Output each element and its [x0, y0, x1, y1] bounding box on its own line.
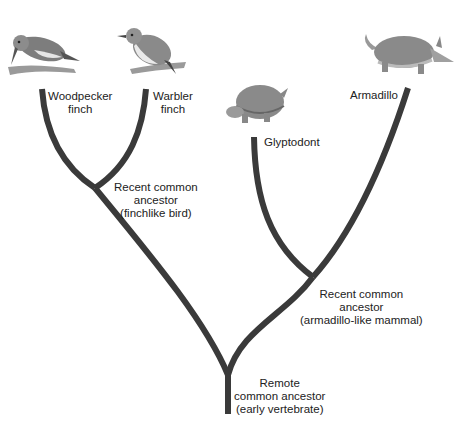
armadillo-icon — [360, 28, 456, 80]
label-armadillo: Armadillo — [350, 89, 398, 102]
label-line: finch — [153, 103, 193, 116]
label-line: Armadillo — [350, 89, 398, 102]
label-line: finch — [48, 103, 112, 116]
phylogenetic-tree-diagram: Woodpecker finch Warbler finch Glyptodon… — [0, 0, 462, 432]
label-line: ancestor — [300, 301, 423, 314]
label-finch-ancestor: Recent common ancestor (finchlike bird) — [114, 181, 198, 220]
label-line: Recent common — [114, 181, 198, 194]
label-woodpecker-finch: Woodpecker finch — [48, 90, 112, 116]
woodpecker-finch-bird-icon — [4, 25, 86, 80]
label-line: (armadillo-like mammal) — [300, 314, 423, 327]
warbler-finch-bird-icon — [114, 24, 190, 80]
label-line: Warbler — [153, 90, 193, 103]
label-warbler-finch: Warbler finch — [153, 90, 193, 116]
label-line: Glyptodont — [264, 136, 320, 149]
label-line: Remote — [234, 377, 325, 390]
branch-armadillo — [313, 88, 408, 277]
label-line: common ancestor — [234, 390, 325, 403]
label-line: Recent common — [300, 288, 423, 301]
label-line: ancestor — [114, 194, 198, 207]
label-line: (finchlike bird) — [114, 207, 198, 220]
branch-glyptodont — [254, 137, 313, 277]
label-line: (early vertebrate) — [234, 403, 325, 416]
label-mammal-ancestor: Recent common ancestor (armadillo-like m… — [300, 288, 423, 327]
label-root-ancestor: Remote common ancestor (early vertebrate… — [234, 377, 325, 416]
label-glyptodont: Glyptodont — [264, 136, 320, 149]
glyptodont-icon — [224, 80, 290, 130]
label-line: Woodpecker — [48, 90, 112, 103]
